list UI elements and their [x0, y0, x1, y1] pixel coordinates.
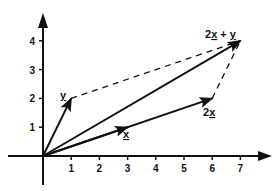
label-x: x — [123, 128, 130, 140]
label-y: y — [60, 89, 67, 101]
label-sum-plus: + — [217, 28, 230, 40]
x-tick-label-2: 2 — [97, 163, 103, 174]
y-tick-label-2: 2 — [29, 93, 35, 104]
label-2x-plus-y: 2x + y — [205, 28, 237, 40]
label-2x-var: x — [209, 106, 216, 118]
label-2x: 2x — [203, 106, 216, 118]
vector-diagram: 12345671234 y x 2x 2x + y — [0, 0, 280, 191]
x-tick-label-5: 5 — [181, 163, 187, 174]
x-tick-label-7: 7 — [238, 163, 244, 174]
x-axis-arrow-icon — [258, 151, 272, 161]
x-tick-label-4: 4 — [153, 163, 159, 174]
y-axis-arrow-icon — [38, 13, 48, 28]
x-tick-label-3: 3 — [125, 163, 131, 174]
x-tick-label-1: 1 — [68, 163, 74, 174]
y-tick-label-4: 4 — [29, 36, 35, 47]
label-sum-y: y — [230, 28, 237, 40]
y-tick-label-3: 3 — [29, 65, 35, 76]
y-tick-label-1: 1 — [29, 122, 35, 133]
x-tick-label-6: 6 — [209, 163, 215, 174]
